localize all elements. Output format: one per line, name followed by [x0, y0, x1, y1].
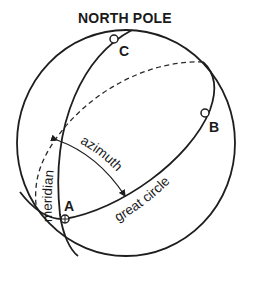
- point-b-label: B: [209, 119, 219, 135]
- great-circle-hidden-arc: [36, 62, 203, 205]
- north-pole-label: NORTH POLE: [78, 10, 172, 26]
- meridian-label-text: meridian: [40, 169, 57, 222]
- globe-diagram: NORTH POLE C B A meridian azimuth great …: [0, 0, 253, 293]
- globe-outline: [17, 30, 235, 256]
- point-c-marker: [110, 35, 118, 43]
- meridian-label: meridian: [40, 169, 57, 222]
- point-b-marker: [201, 109, 209, 117]
- point-a-label: A: [64, 198, 74, 214]
- point-c-label: C: [119, 43, 129, 59]
